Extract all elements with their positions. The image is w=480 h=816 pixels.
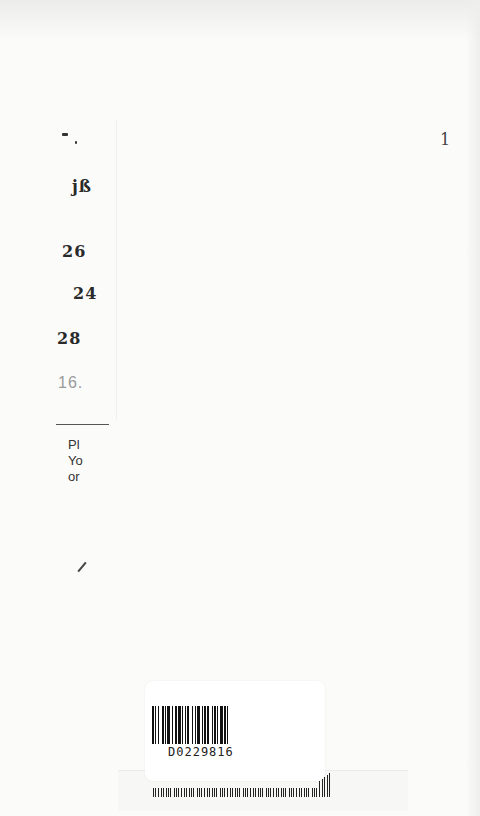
divider-rule [56, 424, 109, 425]
page-shadow-top [0, 0, 480, 40]
barcode-icon [152, 706, 297, 744]
stamped-date: 24 [73, 284, 97, 303]
stamped-date: 16. [58, 374, 83, 392]
barcode-strip-icon [153, 783, 331, 797]
stamped-date: 26 [62, 242, 86, 261]
ink-mark [62, 133, 68, 136]
page-shadow-right [466, 0, 480, 816]
return-notice: Pl Yo or [68, 437, 110, 485]
stamped-date: 28 [57, 329, 81, 348]
notice-line: Pl [68, 437, 110, 453]
pen-mark [77, 562, 86, 572]
page-mark: 1 [440, 130, 450, 149]
ink-mark [75, 141, 77, 144]
stamped-date: jß [72, 177, 92, 196]
notice-line: Yo [68, 453, 110, 469]
barcode-number: D0229816 [168, 745, 234, 759]
notice-line: or [68, 469, 110, 485]
